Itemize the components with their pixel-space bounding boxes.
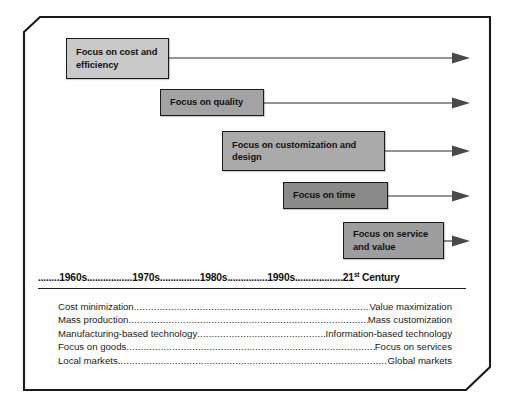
contrast-left-term: Local markets xyxy=(58,354,118,367)
arrow-cost-efficiency xyxy=(169,53,470,64)
contrast-dot-leader: ........................................… xyxy=(118,354,388,367)
decade-axis-label: ........1960s.................1970s.....… xyxy=(38,272,466,283)
decade-label-1960s: 1960s xyxy=(59,272,87,283)
contrast-row: Cost minimization ......................… xyxy=(58,300,452,313)
decade-label-century-rest: Century xyxy=(359,272,399,283)
timeline-box-time[interactable]: Focus on time xyxy=(283,182,388,209)
contrast-right-term: Information-based technology xyxy=(326,327,452,340)
decade-dots-1: ................. xyxy=(87,272,132,283)
contrast-right-term: Global markets xyxy=(387,354,452,367)
contrast-row: Local markets ..........................… xyxy=(58,354,452,367)
contrast-dot-leader: ........................................… xyxy=(197,327,325,340)
contrast-row: Manufacturing-based technology .........… xyxy=(58,327,452,340)
timeline-box-customization-design[interactable]: Focus on customization and design xyxy=(222,131,385,171)
timeline-box-service-value[interactable]: Focus on service and value xyxy=(343,222,444,259)
arrow-time xyxy=(388,191,470,202)
decade-label-1970s: 1970s xyxy=(132,272,160,283)
contrast-right-term: Mass customization xyxy=(368,313,452,326)
timeline-box-label: Focus on service and value xyxy=(353,228,435,253)
contrast-list: Cost minimization ......................… xyxy=(58,300,452,367)
contrast-dot-leader: ........................................… xyxy=(126,340,374,353)
timeline-stage: Focus on cost and efficiency Focus on qu… xyxy=(0,0,514,405)
figure-root: Focus on cost and efficiency Focus on qu… xyxy=(0,0,514,405)
contrast-row: Mass production ........................… xyxy=(58,313,452,326)
contrast-left-term: Manufacturing-based technology xyxy=(58,327,197,340)
contrast-right-term: Focus on services xyxy=(375,340,452,353)
arrow-customization-design xyxy=(385,146,470,157)
arrow-service-value xyxy=(444,236,470,247)
timeline-box-label: Focus on cost and efficiency xyxy=(76,46,160,71)
decade-dots-3: ............... xyxy=(227,272,267,283)
timeline-box-quality[interactable]: Focus on quality xyxy=(160,89,264,116)
decade-label-1980s: 1980s xyxy=(200,272,228,283)
contrast-left-term: Cost minimization xyxy=(58,300,134,313)
decade-dots-4: .................. xyxy=(295,272,343,283)
timeline-box-label: Focus on customization and design xyxy=(232,139,376,164)
decade-label-century-number: 21 xyxy=(343,272,354,283)
decade-leading-dots: ........ xyxy=(38,272,59,283)
decade-dots-2: ............... xyxy=(160,272,200,283)
contrast-row: Focus on goods .........................… xyxy=(58,340,452,353)
decade-label-1990s: 1990s xyxy=(267,272,295,283)
decade-axis-rule xyxy=(38,288,466,289)
timeline-box-label: Focus on time xyxy=(293,189,355,202)
contrast-right-term: Value maximization xyxy=(370,300,452,313)
timeline-box-label: Focus on quality xyxy=(170,96,243,109)
arrow-quality xyxy=(264,98,470,109)
contrast-dot-leader: ........................................… xyxy=(128,313,367,326)
contrast-dot-leader: ........................................… xyxy=(134,300,370,313)
contrast-left-term: Focus on goods xyxy=(58,340,126,353)
timeline-box-cost-efficiency[interactable]: Focus on cost and efficiency xyxy=(66,38,169,79)
contrast-left-term: Mass production xyxy=(58,313,128,326)
